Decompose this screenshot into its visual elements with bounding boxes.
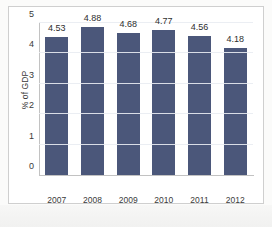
x-tick-label-2009: 2009 <box>119 196 138 205</box>
gridline-3 <box>39 83 253 84</box>
gridline-4 <box>39 52 253 53</box>
y-tick-label-2: 2 <box>29 101 34 110</box>
gridline-1 <box>39 144 253 145</box>
bar-value-2008: 4.88 <box>84 14 102 23</box>
bar-value-2009: 4.68 <box>119 20 137 29</box>
bar-2011 <box>188 36 211 175</box>
chart-figure: % of GDP 012345 4.534.884.684.774.564.18… <box>8 6 264 204</box>
bar-value-2012: 4.18 <box>226 35 244 44</box>
x-tick-label-2007: 2007 <box>47 196 66 205</box>
y-tick-label-0: 0 <box>29 162 34 171</box>
bar-2008 <box>81 27 104 175</box>
scanned-page: % of GDP 012345 4.534.884.684.774.564.18… <box>0 0 272 227</box>
x-tick-label-2008: 2008 <box>83 196 102 205</box>
y-tick-label-4: 4 <box>29 40 34 49</box>
x-axis-line <box>39 175 254 176</box>
bar-value-2011: 4.56 <box>191 23 209 32</box>
plot-area: 012345 4.534.884.684.774.564.18 20072008… <box>39 23 253 175</box>
scan-artifact-band <box>0 205 272 227</box>
x-tick-label-2011: 2011 <box>190 196 208 205</box>
bar-2012 <box>224 48 247 175</box>
x-tick-label-2012: 2012 <box>226 196 245 205</box>
gridline-5 <box>39 22 253 23</box>
bar-value-2010: 4.77 <box>155 17 173 26</box>
bar-2007 <box>45 37 68 175</box>
x-tick-label-2010: 2010 <box>154 196 173 205</box>
y-tick-label-3: 3 <box>29 70 34 79</box>
gridline-2 <box>39 113 253 114</box>
y-tick-label-1: 1 <box>29 131 34 140</box>
bar-2009 <box>117 33 140 175</box>
y-tick-label-5: 5 <box>29 10 34 19</box>
bar-value-2007: 4.53 <box>48 24 66 33</box>
